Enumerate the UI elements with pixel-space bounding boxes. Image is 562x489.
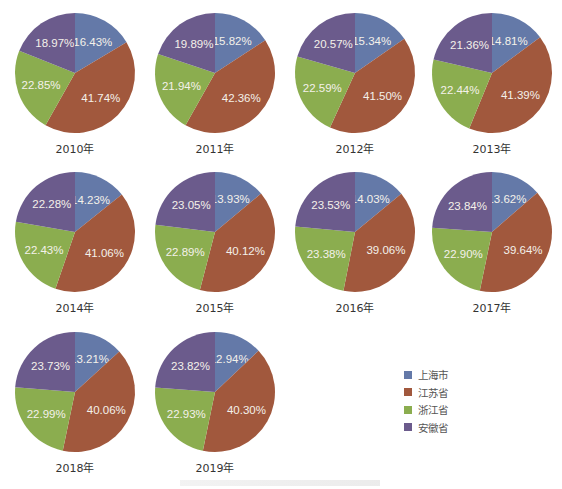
pie-2011年: 15.82%42.36%21.94%19.89%2011年	[155, 13, 275, 156]
slice-value-label: 21.36%	[450, 39, 489, 51]
pie-2012年: 15.34%41.50%22.59%20.57%2012年	[295, 13, 415, 156]
slice-value-label: 13.93%	[211, 193, 250, 205]
pie-2018年: 13.21%40.06%22.99%23.73%2018年	[15, 332, 135, 475]
legend: 上海市 江苏省 浙江省 安徽省	[404, 366, 448, 436]
legend-label: 安徽省	[418, 420, 448, 435]
slice-value-label: 14.03%	[351, 193, 390, 205]
slice-value-label: 22.43%	[24, 244, 63, 256]
slice-value-label: 14.81%	[489, 35, 528, 47]
slice-value-label: 23.38%	[307, 248, 346, 260]
slice-value-label: 41.50%	[363, 90, 402, 102]
year-label: 2012年	[336, 142, 375, 156]
legend-label: 上海市	[418, 367, 448, 382]
legend-swatch-icon	[404, 406, 412, 414]
slice-value-label: 23.82%	[171, 360, 210, 372]
slice-value-label: 41.06%	[85, 247, 124, 259]
slice-value-label: 39.06%	[366, 244, 405, 256]
pie-2019年: 12.94%40.30%22.93%23.82%2019年	[155, 332, 275, 475]
slice-value-label: 22.89%	[166, 246, 205, 258]
year-label: 2017年	[473, 301, 512, 315]
slice-value-label: 13.62%	[487, 193, 526, 205]
slice-value-label: 15.82%	[213, 35, 252, 47]
slice-value-label: 13.21%	[70, 353, 109, 365]
slice-value-label: 23.53%	[311, 199, 350, 211]
year-label: 2018年	[56, 461, 95, 475]
pie-2015年: 13.93%40.12%22.89%23.05%2015年	[155, 172, 275, 315]
slice-value-label: 41.39%	[501, 89, 540, 101]
year-label: 2019年	[196, 461, 235, 475]
legend-item-shanghai: 上海市	[404, 366, 448, 384]
slice-value-label: 40.12%	[226, 245, 265, 257]
year-label: 2011年	[196, 142, 235, 156]
slice-value-label: 23.84%	[448, 200, 487, 212]
legend-swatch-icon	[404, 423, 412, 431]
pie-chart-grid: 16.43%41.74%22.85%18.97%2010年15.82%42.36…	[0, 0, 562, 489]
legend-item-zhejiang: 浙江省	[404, 401, 448, 419]
legend-swatch-icon	[404, 388, 412, 396]
pie-2016年: 14.03%39.06%23.38%23.53%2016年	[295, 172, 415, 315]
legend-label: 江苏省	[418, 385, 448, 400]
slice-value-label: 20.57%	[314, 38, 353, 50]
slice-value-label: 23.73%	[31, 360, 70, 372]
year-label: 2010年	[56, 142, 95, 156]
slice-value-label: 23.05%	[172, 199, 211, 211]
year-label: 2014年	[56, 301, 95, 315]
legend-item-anhui: 安徽省	[404, 419, 448, 437]
pie-2017年: 13.62%39.64%22.90%23.84%2017年	[432, 172, 552, 315]
slice-value-label: 39.64%	[504, 244, 543, 256]
year-label: 2013年	[473, 142, 512, 156]
slice-value-label: 22.28%	[32, 198, 71, 210]
slice-value-label: 19.89%	[174, 38, 213, 50]
year-label: 2015年	[196, 301, 235, 315]
slice-value-label: 22.59%	[303, 82, 342, 94]
pie-2013年: 14.81%41.39%22.44%21.36%2013年	[432, 13, 552, 156]
legend-label: 浙江省	[418, 402, 448, 417]
slice-value-label: 22.90%	[444, 248, 483, 260]
slice-value-label: 18.97%	[35, 37, 74, 49]
slice-value-label: 15.34%	[352, 35, 391, 47]
slice-value-label: 42.36%	[222, 92, 261, 104]
year-label: 2016年	[336, 301, 375, 315]
slice-value-label: 41.74%	[81, 92, 120, 104]
slice-value-label: 40.06%	[87, 404, 126, 416]
pie-2010年: 16.43%41.74%22.85%18.97%2010年	[15, 13, 135, 156]
slice-value-label: 14.23%	[71, 194, 110, 206]
figure-caption-faded	[180, 480, 380, 486]
slice-value-label: 21.94%	[162, 80, 201, 92]
slice-value-label: 22.85%	[22, 79, 61, 91]
legend-item-jiangsu: 江苏省	[404, 384, 448, 402]
slice-value-label: 22.99%	[27, 408, 66, 420]
slice-value-label: 40.30%	[227, 404, 266, 416]
legend-swatch-icon	[404, 371, 412, 379]
slice-value-label: 22.93%	[167, 408, 206, 420]
pie-2014年: 14.23%41.06%22.43%22.28%2014年	[15, 172, 135, 315]
slice-value-label: 22.44%	[440, 84, 479, 96]
slice-value-label: 16.43%	[73, 36, 112, 48]
slice-value-label: 12.94%	[210, 353, 249, 365]
